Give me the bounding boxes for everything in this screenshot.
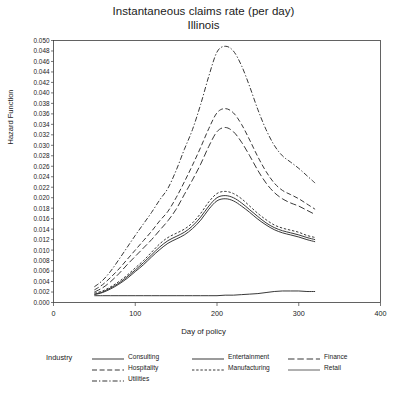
y-tick-label: 0.016 bbox=[20, 215, 50, 222]
series-line-entertainment bbox=[94, 196, 315, 295]
x-tick-label: 300 bbox=[284, 309, 314, 318]
y-tick-label: 0.008 bbox=[20, 257, 50, 264]
y-tick-label: 0.038 bbox=[20, 100, 50, 107]
y-tick-label: 0.018 bbox=[20, 205, 50, 212]
y-tick-label: 0.040 bbox=[20, 89, 50, 96]
legend-label: Entertainment bbox=[228, 353, 269, 360]
y-tick-label: 0.022 bbox=[20, 184, 50, 191]
legend-swatch-manufacturing bbox=[192, 367, 224, 373]
legend-swatch-finance bbox=[288, 356, 320, 362]
y-tick-label: 0.044 bbox=[20, 68, 50, 75]
plot-frame bbox=[54, 41, 381, 303]
y-tick-label: 0.010 bbox=[20, 247, 50, 254]
y-tick-label: 0.030 bbox=[20, 142, 50, 149]
x-tick-label: 100 bbox=[120, 309, 150, 318]
y-tick-label: 0.020 bbox=[20, 194, 50, 201]
y-tick-label: 0.042 bbox=[20, 79, 50, 86]
y-tick-label: 0.014 bbox=[20, 226, 50, 233]
series-line-finance bbox=[94, 127, 315, 292]
legend-label: Finance bbox=[324, 353, 347, 360]
y-tick-label: 0.034 bbox=[20, 121, 50, 128]
x-tick-label: 200 bbox=[202, 309, 232, 318]
y-tick-label: 0.032 bbox=[20, 131, 50, 138]
y-tick-label: 0.046 bbox=[20, 58, 50, 65]
y-tick-label: 0.050 bbox=[20, 37, 50, 44]
legend-swatch-entertainment bbox=[192, 356, 224, 362]
data-series-group bbox=[94, 46, 315, 295]
legend-label: Manufacturing bbox=[228, 364, 270, 371]
y-tick-label: 0.024 bbox=[20, 173, 50, 180]
x-tick-label: 400 bbox=[366, 309, 396, 318]
axis-ticks bbox=[51, 41, 381, 307]
legend-label: Utilities bbox=[128, 375, 149, 382]
y-tick-label: 0.028 bbox=[20, 152, 50, 159]
x-tick-label: 0 bbox=[39, 309, 69, 318]
legend-swatch-consulting bbox=[92, 356, 124, 362]
y-tick-label: 0.036 bbox=[20, 110, 50, 117]
y-tick-label: 0.002 bbox=[20, 288, 50, 295]
legend-label: Hospitality bbox=[128, 364, 158, 371]
series-line-utilities bbox=[94, 46, 315, 287]
series-line-consulting bbox=[94, 291, 315, 296]
legend: Industry ConsultingHospitalityUtilitiesE… bbox=[0, 350, 407, 392]
y-tick-label: 0.012 bbox=[20, 236, 50, 243]
y-tick-label: 0.048 bbox=[20, 47, 50, 54]
legend-swatch-utilities bbox=[92, 378, 124, 384]
legend-label: Consulting bbox=[128, 353, 159, 360]
legend-label: Retail bbox=[324, 364, 341, 371]
y-tick-label: 0.026 bbox=[20, 163, 50, 170]
legend-swatch-hospitality bbox=[92, 367, 124, 373]
y-tick-label: 0.000 bbox=[20, 299, 50, 306]
y-tick-label: 0.004 bbox=[20, 278, 50, 285]
series-line-hospitality bbox=[94, 109, 315, 290]
plot-area bbox=[0, 0, 407, 394]
legend-swatch-retail bbox=[288, 367, 320, 373]
y-tick-label: 0.006 bbox=[20, 267, 50, 274]
legend-title: Industry bbox=[46, 353, 72, 362]
chart-figure: Instantaneous claims rate (per day) Illi… bbox=[0, 0, 407, 394]
